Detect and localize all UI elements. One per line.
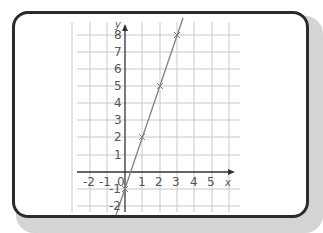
- graph-canvas: y x 8 7 6 5 4 3 2 1 -1 -2 -2 -1 0 1 2 3 …: [0, 0, 323, 233]
- svg-text:8: 8: [114, 28, 122, 42]
- x-axis-arrow-icon: [228, 169, 235, 175]
- svg-text:-1: -1: [99, 175, 111, 189]
- y-axis-arrow-icon: [122, 24, 128, 31]
- svg-text:-2: -2: [83, 175, 95, 189]
- svg-text:0: 0: [117, 175, 125, 189]
- svg-text:7: 7: [114, 45, 122, 59]
- svg-text:3: 3: [172, 175, 180, 189]
- svg-text:1: 1: [114, 148, 122, 162]
- x-axis-label: x: [224, 177, 231, 188]
- svg-text:2: 2: [114, 130, 122, 144]
- svg-text:4: 4: [190, 175, 198, 189]
- svg-text:6: 6: [114, 62, 122, 76]
- svg-text:2: 2: [155, 175, 163, 189]
- svg-text:1: 1: [138, 175, 146, 189]
- svg-text:4: 4: [114, 96, 122, 110]
- svg-text:5: 5: [114, 79, 122, 93]
- svg-text:5: 5: [207, 175, 215, 189]
- x-tick-labels: -2 -1 0 1 2 3 4 5: [83, 175, 215, 189]
- svg-text:-2: -2: [109, 199, 121, 213]
- svg-text:3: 3: [114, 113, 122, 127]
